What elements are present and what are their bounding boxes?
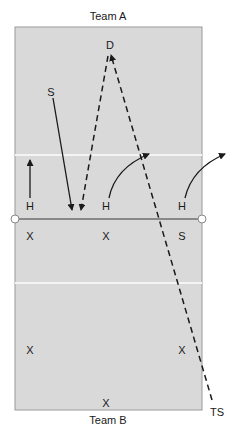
- player-hitter-left: H: [26, 200, 34, 212]
- server-label: TS: [210, 406, 224, 418]
- opponent-front-left: X: [26, 230, 34, 242]
- opponent-front-middle: X: [102, 230, 110, 242]
- team-a-title: Team A: [90, 10, 127, 22]
- opponent-back-middle: X: [102, 397, 110, 409]
- opponent-back-right: X: [178, 344, 186, 356]
- net-post-right: [198, 215, 206, 223]
- player-hitter-right: H: [178, 200, 186, 212]
- player-setter: S: [47, 86, 54, 98]
- team-b-title: Team B: [89, 414, 126, 426]
- opponent-back-left: X: [26, 344, 34, 356]
- opponent-front-right-setter: S: [178, 230, 185, 242]
- player-hitter-middle: H: [102, 200, 110, 212]
- net-post-left: [11, 215, 19, 223]
- volleyball-play-diagram: Team A Team B D S H H H X X S X X X TS: [0, 0, 238, 437]
- player-defender: D: [106, 39, 114, 51]
